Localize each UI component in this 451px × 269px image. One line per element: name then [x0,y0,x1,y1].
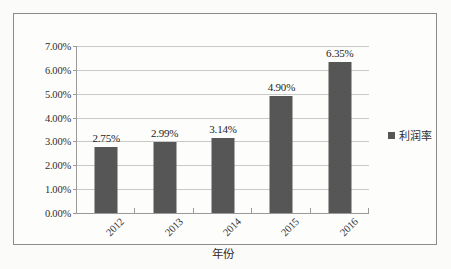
bar-value-label: 3.14% [209,123,236,135]
bar-category[interactable]: 6.35%2016 [311,46,369,213]
chart-frame: 0.00%1.00%2.00%3.00%4.00%5.00%6.00%7.00%… [13,13,437,245]
gridline [77,213,369,214]
bar[interactable] [95,147,118,213]
x-axis-label: 2015 [279,216,301,238]
y-axis-label: 0.00% [45,208,71,219]
bar-value-label: 4.90% [268,81,295,93]
chart-legend: 利润率 [388,127,432,143]
bar-category[interactable]: 3.14%2014 [194,46,252,213]
bar-category[interactable]: 4.90%2015 [252,46,310,213]
x-axis-label: 2014 [221,216,243,238]
plot-area: 0.00%1.00%2.00%3.00%4.00%5.00%6.00%7.00%… [76,46,369,213]
y-axis-label: 5.00% [45,88,71,99]
y-axis-label: 2.00% [45,160,71,171]
bar-series: 2.75%20122.99%20133.14%20144.90%20156.35… [77,46,369,213]
bar[interactable] [212,138,235,213]
y-axis-label: 4.00% [45,112,71,123]
x-axis-title: 年份 [76,245,369,261]
x-axis-tick [368,208,369,213]
y-axis-label: 6.00% [45,64,71,75]
y-axis-label: 7.00% [45,41,71,52]
legend-label: 利润率 [399,127,432,143]
bar-category[interactable]: 2.75%2012 [77,46,135,213]
bar-value-label: 2.75% [92,132,119,144]
x-axis-label: 2016 [338,216,360,238]
bar-value-label: 6.35% [326,47,353,59]
x-axis-label: 2013 [163,216,185,238]
x-axis-label: 2012 [104,216,126,238]
bar[interactable] [153,142,176,213]
bar[interactable] [270,96,293,213]
y-axis-label: 3.00% [45,136,71,147]
bar[interactable] [328,62,351,213]
bar-value-label: 2.99% [151,127,178,139]
y-axis-label: 1.00% [45,184,71,195]
bar-category[interactable]: 2.99%2013 [135,46,193,213]
y-axis-tick [73,213,77,214]
legend-swatch-icon [388,132,395,139]
